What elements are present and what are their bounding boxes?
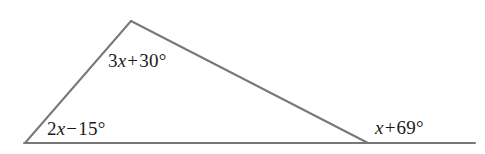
triangle-right-side: [131, 21, 368, 143]
lower-left-angle-constant: 15°: [78, 118, 105, 139]
lower-left-angle-label: 2x−15°: [47, 119, 105, 138]
apex-angle-coefficient: 3: [108, 50, 118, 71]
exterior-angle-constant: 69°: [397, 117, 424, 138]
exterior-angle-operator: +: [384, 117, 397, 138]
lower-left-angle-operator: −: [65, 118, 78, 139]
apex-angle-operator: +: [126, 50, 139, 71]
exterior-angle-label: x+69°: [375, 118, 424, 137]
geometry-figure: 3x+30° 2x−15° x+69°: [0, 0, 485, 154]
lower-left-angle-coefficient: 2: [47, 118, 57, 139]
exterior-angle-variable: x: [375, 117, 384, 138]
apex-angle-label: 3x+30°: [108, 51, 166, 70]
apex-angle-constant: 30°: [139, 50, 166, 71]
